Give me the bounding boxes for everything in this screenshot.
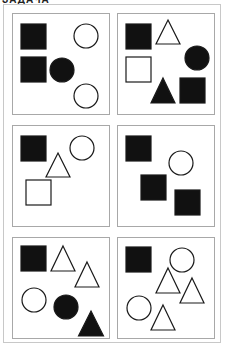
filled-circle-shape <box>185 46 209 70</box>
filled-square-shape <box>175 190 200 215</box>
outline-triangle-shape <box>180 278 204 303</box>
panel-shapes <box>118 126 214 226</box>
figure-panel-6[interactable] <box>117 237 215 339</box>
outline-triangle-shape <box>151 305 175 330</box>
filled-triangle-shape <box>79 311 104 336</box>
outline-circle-shape <box>169 151 193 175</box>
outline-triangle-shape <box>51 246 75 271</box>
outline-circle-shape <box>127 296 151 320</box>
filled-circle-shape <box>54 295 78 319</box>
filled-square-shape <box>21 136 46 161</box>
figure-panel-3[interactable] <box>12 125 110 227</box>
figure-panel-5[interactable] <box>12 237 110 339</box>
panel-shapes <box>118 14 214 114</box>
figure-panel-4[interactable] <box>117 125 215 227</box>
filled-square-shape <box>21 246 46 271</box>
outline-circle-shape <box>170 248 194 272</box>
puzzle-frame <box>3 4 221 343</box>
filled-square-shape <box>141 175 166 200</box>
outline-circle-shape <box>70 136 94 160</box>
outline-triangle-shape <box>75 262 99 287</box>
outline-triangle-shape <box>46 153 70 177</box>
outline-circle-shape <box>74 84 98 108</box>
panel-shapes <box>13 126 109 226</box>
outline-circle-shape <box>22 288 46 312</box>
outline-triangle-shape <box>156 268 180 293</box>
filled-square-shape <box>126 24 151 49</box>
filled-square-shape <box>126 247 151 272</box>
outline-square-shape <box>126 57 151 82</box>
panel-shapes <box>13 14 109 114</box>
panel-shapes <box>118 238 214 338</box>
outline-triangle-shape <box>156 20 180 44</box>
filled-square-shape <box>21 57 46 82</box>
filled-square-shape <box>180 78 205 103</box>
filled-triangle-shape <box>151 78 175 103</box>
filled-square-shape <box>21 24 46 49</box>
outline-circle-shape <box>74 24 98 48</box>
filled-square-shape <box>126 136 151 161</box>
outline-square-shape <box>26 180 51 205</box>
filled-circle-shape <box>50 58 74 82</box>
panel-shapes <box>13 238 109 338</box>
figure-panel-2[interactable] <box>117 13 215 115</box>
figure-panel-1[interactable] <box>12 13 110 115</box>
